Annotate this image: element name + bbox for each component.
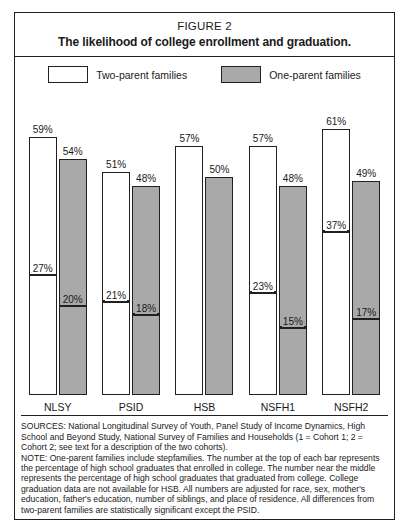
axis-label-psid: PSID [102,401,160,413]
footnote-note: NOTE: One-parent families include stepfa… [21,453,389,515]
bar-value-label: 57% [253,133,273,144]
bar-wrap: 20%54% [59,89,87,395]
bar-group-nsfh2: 37%61%17%49%NSFH2 [322,89,380,395]
bar-value-label: 48% [136,173,156,184]
legend-item-two-parent: Two-parent families [48,66,187,83]
legend-label-two-parent: Two-parent families [96,69,187,81]
footnote-sources: SOURCES: National Longitudinal Survey of… [21,421,389,452]
axis-label-nsfh1: NSFH1 [249,401,307,413]
bar-psid-two-parent[interactable]: 21% [102,172,130,395]
bar-nsfh2-one-parent[interactable]: 17% [352,181,380,395]
bar-group-psid: 21%51%18%48%PSID [102,89,160,395]
white-square-icon [48,66,88,83]
chart-bar-groups: 27%59%20%54%NLSY21%51%18%48%PSID57%50%HS… [21,89,388,395]
graduation-value-label: 18% [135,303,157,314]
bar-wrap: 37%61% [322,89,350,395]
bar-nlsy-two-parent[interactable]: 27% [29,137,57,395]
page-title: The likelihood of college enrollment and… [19,35,390,50]
bar-nsfh2-two-parent[interactable]: 37% [322,129,350,396]
bar-wrap: 17%49% [352,89,380,395]
figure-number: FIGURE 2 [19,19,390,33]
bar-nsfh1-one-parent[interactable]: 15% [279,186,307,396]
bar-group-nsfh1: 23%57%15%48%NSFH1 [249,89,307,395]
bar-wrap: 27%59% [29,89,57,395]
bar-group-hsb: 57%50%HSB [175,89,233,395]
bar-wrap: 50% [205,89,233,395]
figure-footnotes: SOURCES: National Longitudinal Survey of… [15,416,394,519]
bar-value-label: 57% [179,133,199,144]
bar-hsb-one-parent[interactable] [205,177,233,396]
chart-legend: Two-parent families One-parent families [15,57,394,89]
bar-wrap: 15%48% [279,89,307,395]
bar-wrap: 57% [175,89,203,395]
bar-wrap: 21%51% [102,89,130,395]
bar-value-label: 59% [33,124,53,135]
axis-label-hsb: HSB [175,401,233,413]
chart-plot-area: 27%59%20%54%NLSY21%51%18%48%PSID57%50%HS… [21,89,388,416]
bar-value-label: 51% [106,159,126,170]
bar-value-label: 54% [63,146,83,157]
bar-nsfh1-two-parent[interactable]: 23% [249,146,277,395]
axis-label-nlsy: NLSY [29,401,87,413]
bar-group-nlsy: 27%59%20%54%NLSY [29,89,87,395]
figure-frame: FIGURE 2 The likelihood of college enrol… [14,12,395,520]
legend-item-one-parent: One-parent families [221,66,361,83]
bar-value-label: 49% [356,168,376,179]
bar-value-label: 48% [283,173,303,184]
gray-square-icon [221,66,261,83]
bar-psid-one-parent[interactable]: 18% [132,186,160,396]
bar-value-label: 50% [209,164,229,175]
graduation-value-label: 37% [325,220,347,231]
legend-label-one-parent: One-parent families [269,69,361,81]
bar-wrap: 18%48% [132,89,160,395]
bar-value-label: 61% [326,116,346,127]
bar-nlsy-one-parent[interactable]: 20% [59,159,87,395]
graduation-value-label: 15% [282,316,304,327]
axis-label-nsfh2: NSFH2 [322,401,380,413]
graduation-value-label: 17% [355,307,377,318]
graduation-value-label: 27% [32,263,54,274]
bar-hsb-two-parent[interactable] [175,146,203,395]
graduation-value-label: 20% [62,294,84,305]
bar-wrap: 23%57% [249,89,277,395]
graduation-value-label: 23% [252,281,274,292]
graduation-value-label: 21% [105,290,127,301]
figure-title-block: FIGURE 2 The likelihood of college enrol… [15,13,394,57]
